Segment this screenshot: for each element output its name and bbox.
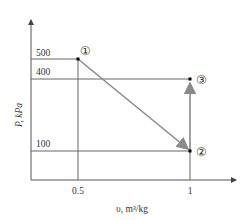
state-point-3 <box>189 78 192 81</box>
y-tick-500: 500 <box>36 48 51 58</box>
x-tick-05: 0.5 <box>72 186 84 196</box>
process-1-2 <box>78 59 188 149</box>
y-axis-label: P, kPa <box>14 103 24 128</box>
x-tick-1: 1 <box>188 186 193 196</box>
state-point-2 <box>189 150 192 153</box>
state-label-3: ③ <box>196 73 207 87</box>
state-label-1: ① <box>80 44 91 58</box>
pv-diagram: ① ③ ② 500 400 100 0.5 1 P, kPa υ, m³/kg <box>0 0 240 220</box>
state-label-2: ② <box>196 145 207 159</box>
y-tick-400: 400 <box>36 67 51 77</box>
x-axis-label: υ, m³/kg <box>116 204 148 214</box>
y-tick-100: 100 <box>36 139 51 149</box>
